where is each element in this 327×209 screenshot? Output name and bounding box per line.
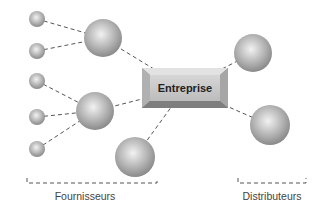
sphere-node: [29, 141, 45, 157]
sphere-node: [250, 105, 290, 145]
sphere-node: [29, 109, 45, 125]
sphere-node: [29, 43, 45, 59]
sphere-node: [29, 11, 45, 27]
entreprise-label: Entreprise: [142, 68, 228, 108]
group-brackets: [27, 178, 306, 183]
fournisseurs-label: Fournisseurs: [55, 190, 116, 202]
sphere-node: [76, 92, 114, 130]
sphere-node: [234, 34, 272, 72]
sphere-node: [115, 137, 155, 177]
group-bracket: [238, 178, 306, 183]
sphere-node: [84, 19, 122, 57]
group-bracket: [27, 178, 157, 183]
sphere-node: [29, 73, 45, 89]
distributeurs-label: Distributeurs: [243, 190, 302, 202]
